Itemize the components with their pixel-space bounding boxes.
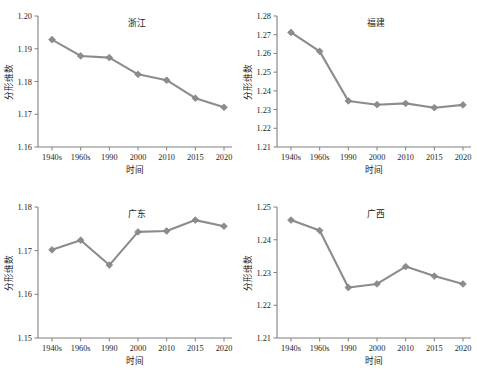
x-tick-label: 1940s xyxy=(42,344,62,353)
x-tick-label: 2020 xyxy=(455,153,472,162)
y-tick-label: 1.18 xyxy=(17,78,32,87)
data-point-marker xyxy=(402,100,409,107)
y-tick-label: 1.24 xyxy=(256,87,271,96)
data-series-line xyxy=(291,32,463,107)
y-tick-label: 1.22 xyxy=(256,124,271,133)
data-point-marker xyxy=(460,281,467,288)
chart-panel-guangxi: 1.211.221.231.241.251940s1960s1990200020… xyxy=(239,191,477,381)
data-point-marker xyxy=(221,104,228,111)
x-tick-label: 1960s xyxy=(71,344,91,353)
data-point-marker xyxy=(431,273,438,280)
y-tick-label: 1.26 xyxy=(256,49,271,58)
x-tick-label: 1990 xyxy=(101,153,118,162)
y-tick-label: 1.25 xyxy=(256,68,271,77)
y-tick-label: 1.27 xyxy=(256,31,271,40)
x-tick-label: 1990 xyxy=(340,153,357,162)
y-axis-title: 分形维数 xyxy=(3,64,14,100)
y-tick-label: 1.21 xyxy=(256,143,271,152)
x-tick-label: 2010 xyxy=(158,153,175,162)
x-tick-label: 2000 xyxy=(369,344,386,353)
y-tick-label: 1.17 xyxy=(17,110,32,119)
data-point-marker xyxy=(192,217,199,224)
chart-svg-guangxi: 1.211.221.231.241.251940s1960s1990200020… xyxy=(239,191,477,381)
data-point-marker xyxy=(49,246,56,253)
data-point-marker xyxy=(345,284,352,291)
chart-svg-fujian: 1.211.221.231.241.251.261.271.281940s196… xyxy=(239,0,477,190)
y-tick-label: 1.23 xyxy=(256,269,271,278)
x-axis-title: 时间 xyxy=(126,164,144,175)
x-tick-label: 1940s xyxy=(42,153,62,162)
x-tick-label: 2020 xyxy=(216,153,233,162)
chart-panel-zhejiang: 1.161.171.181.191.201940s1960s1990200020… xyxy=(0,0,238,190)
x-tick-label: 2015 xyxy=(426,344,443,353)
panel-title: 浙江 xyxy=(128,17,146,28)
data-point-marker xyxy=(288,217,295,224)
x-tick-label: 2000 xyxy=(130,153,147,162)
x-tick-label: 2010 xyxy=(397,344,414,353)
chart-panel-guangdong: 1.151.161.171.181940s1960s19902000201020… xyxy=(0,191,238,381)
x-tick-label: 2020 xyxy=(455,344,472,353)
data-point-marker xyxy=(431,104,438,111)
y-tick-label: 1.21 xyxy=(256,334,271,343)
y-tick-label: 1.28 xyxy=(256,12,271,21)
x-tick-label: 2000 xyxy=(130,344,147,353)
y-tick-label: 1.20 xyxy=(17,12,32,21)
x-tick-label: 1960s xyxy=(310,153,330,162)
chart-panel-fujian: 1.211.221.231.241.251.261.271.281940s196… xyxy=(239,0,477,190)
chart-svg-guangdong: 1.151.161.171.181940s1960s19902000201020… xyxy=(0,191,238,381)
panel-title: 广西 xyxy=(367,208,385,219)
x-tick-label: 1990 xyxy=(340,344,357,353)
y-tick-label: 1.17 xyxy=(17,247,32,256)
data-point-marker xyxy=(374,101,381,108)
y-axis-title: 分形维数 xyxy=(242,255,253,291)
y-tick-label: 1.25 xyxy=(256,203,271,212)
y-tick-label: 1.18 xyxy=(17,203,32,212)
x-tick-label: 1940s xyxy=(281,344,301,353)
chart-svg-zhejiang: 1.161.171.181.191.201940s1960s1990200020… xyxy=(0,0,238,190)
x-tick-label: 2010 xyxy=(397,153,414,162)
y-axis-title: 分形维数 xyxy=(242,64,253,100)
y-tick-label: 1.24 xyxy=(256,236,271,245)
data-point-marker xyxy=(221,223,228,230)
data-point-marker xyxy=(163,228,170,235)
panel-title: 广东 xyxy=(128,208,146,219)
data-point-marker xyxy=(316,227,323,234)
x-tick-label: 2020 xyxy=(216,344,233,353)
panel-title: 福建 xyxy=(367,17,385,28)
x-tick-label: 1940s xyxy=(281,153,301,162)
y-tick-label: 1.16 xyxy=(17,143,32,152)
x-axis-title: 时间 xyxy=(365,164,383,175)
x-tick-label: 2015 xyxy=(187,344,204,353)
x-axis-title: 时间 xyxy=(126,355,144,366)
x-tick-label: 2015 xyxy=(426,153,443,162)
x-tick-label: 1960s xyxy=(71,153,91,162)
figure-four-panel-chart: 1.161.171.181.191.201940s1960s1990200020… xyxy=(0,0,477,381)
x-tick-label: 1960s xyxy=(310,344,330,353)
y-tick-label: 1.22 xyxy=(256,301,271,310)
y-tick-label: 1.16 xyxy=(17,290,32,299)
y-axis-title: 分形维数 xyxy=(3,255,14,291)
data-series-line xyxy=(52,220,224,265)
x-axis-title: 时间 xyxy=(365,355,383,366)
x-tick-label: 1990 xyxy=(101,344,118,353)
data-point-marker xyxy=(460,101,467,108)
x-tick-label: 2015 xyxy=(187,153,204,162)
x-tick-label: 2000 xyxy=(369,153,386,162)
y-tick-label: 1.19 xyxy=(17,45,32,54)
y-tick-label: 1.23 xyxy=(256,106,271,115)
y-tick-label: 1.15 xyxy=(17,334,32,343)
x-tick-label: 2010 xyxy=(158,344,175,353)
